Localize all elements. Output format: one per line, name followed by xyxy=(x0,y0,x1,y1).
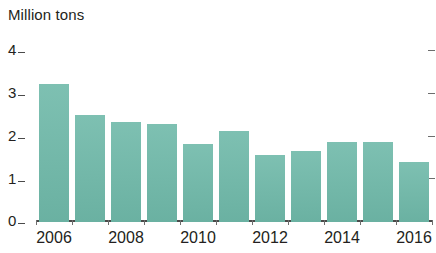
bar-2008 xyxy=(111,122,141,222)
y-tick-0-dash xyxy=(18,223,25,224)
bar-2011 xyxy=(219,131,249,222)
bar-2006 xyxy=(39,84,69,222)
y-axis-title: Million tons xyxy=(8,6,84,23)
x-axis-label-2014: 2014 xyxy=(324,228,360,248)
plot-area xyxy=(36,44,432,222)
y-tick-0: 0 xyxy=(8,211,34,231)
x-axis-label-2010: 2010 xyxy=(180,228,216,248)
y-tick-2-label: 2 xyxy=(8,127,16,144)
y-tick-4-label: 4 xyxy=(8,41,16,58)
y-tick-3-dash xyxy=(18,95,25,96)
x-axis-label-2008: 2008 xyxy=(108,228,144,248)
bar-2013 xyxy=(291,151,321,222)
x-tick-1 xyxy=(72,220,73,225)
bar-2007 xyxy=(75,115,105,222)
x-tick-4 xyxy=(180,220,181,225)
y-tick-2-dash xyxy=(18,138,25,139)
x-tick-2 xyxy=(108,220,109,225)
y-tick-1-dash xyxy=(18,181,25,182)
bar-2010 xyxy=(183,144,213,222)
x-axis-label-2006: 2006 xyxy=(36,228,72,248)
bar-2016 xyxy=(399,162,429,222)
y-tick-1-label: 1 xyxy=(8,170,16,187)
x-tick-6 xyxy=(252,220,253,225)
x-tick-10 xyxy=(396,220,397,225)
x-tick-9 xyxy=(360,220,361,225)
x-tick-0 xyxy=(36,220,37,225)
bar-2014 xyxy=(327,142,357,222)
bar-2015 xyxy=(363,142,393,222)
y-tick-3: 3 xyxy=(8,83,34,103)
bar-2012 xyxy=(255,155,285,222)
y-tick-4: 4 xyxy=(8,40,34,60)
bar-2009 xyxy=(147,124,177,222)
x-tick-7 xyxy=(288,220,289,225)
y-tick-2: 2 xyxy=(8,126,34,146)
y-tick-3-label: 3 xyxy=(8,84,16,101)
y-tick-1: 1 xyxy=(8,169,34,189)
x-axis-label-2012: 2012 xyxy=(252,228,288,248)
y-tick-0-label: 0 xyxy=(8,212,16,229)
x-tick-11 xyxy=(432,220,433,225)
x-axis-label-2016: 2016 xyxy=(396,228,432,248)
y-tick-4-dash xyxy=(18,52,25,53)
x-tick-3 xyxy=(144,220,145,225)
x-tick-8 xyxy=(324,220,325,225)
x-tick-5 xyxy=(216,220,217,225)
bar-chart-figure: Million tons 4 3 2 1 0 20062008201020122… xyxy=(0,0,436,253)
